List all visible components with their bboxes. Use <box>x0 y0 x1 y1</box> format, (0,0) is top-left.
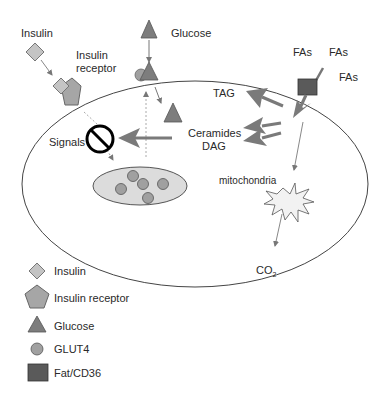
legend-glucose-icon <box>28 316 46 332</box>
ceramides-arrow <box>243 117 281 134</box>
glut4-icon <box>138 179 149 190</box>
signal-dotted-line-2 <box>107 150 113 160</box>
legend-glucose-label: Glucose <box>54 320 94 332</box>
tag-label: TAG <box>213 87 235 99</box>
legend-fat-cd36-icon <box>28 364 48 381</box>
tag-arrow <box>246 88 283 108</box>
insulin-resistance-diagram: Insulin Insulin receptor Signals Glucose… <box>0 0 389 400</box>
fas-label-3: FAs <box>339 71 358 83</box>
glucose-entry-arrow <box>155 87 161 103</box>
insulin-arrow <box>41 60 52 75</box>
signal-dotted-line <box>84 112 97 124</box>
mitochondria-icon <box>264 183 314 222</box>
glucose-label: Glucose <box>171 27 211 39</box>
co2-release-arrow <box>275 214 282 246</box>
legend-insulin-label: Insulin <box>54 265 86 277</box>
fas-label-1: FAs <box>293 46 312 58</box>
fas-label-2: FAs <box>329 46 348 58</box>
glut4-icon <box>128 171 139 182</box>
insulin-label: Insulin <box>21 27 53 39</box>
glucose-inside-icon <box>164 103 182 122</box>
ceramides-label: Ceramides <box>188 127 242 139</box>
blocked-signals-icon <box>87 126 113 152</box>
insulin-molecule-icon <box>26 43 44 61</box>
glut4-icon <box>143 193 154 204</box>
legend-insulin-receptor-label: Insulin receptor <box>54 292 130 304</box>
fa-oxidation-arrow <box>294 122 303 170</box>
legend-insulin-receptor-icon <box>25 285 49 308</box>
legend: Insulin Insulin receptor Glucose GLUT4 F… <box>25 263 130 381</box>
insulin-receptor-label-2: receptor <box>76 62 117 74</box>
legend-glut4-icon <box>31 343 43 355</box>
glucose-outside-icon <box>141 20 157 38</box>
cell-membrane <box>22 81 368 287</box>
mitochondria-label: mitochondria <box>219 175 277 186</box>
inhibition-arrow <box>118 128 172 148</box>
signals-label: Signals <box>49 136 86 148</box>
insulin-receptor-label-1: Insulin <box>76 49 108 61</box>
legend-glut4-label: GLUT4 <box>54 343 89 355</box>
fat-cd36-icon <box>298 79 317 95</box>
legend-insulin-icon <box>29 263 45 279</box>
dag-label: DAG <box>202 140 226 152</box>
co2-label: CO2 <box>256 264 277 278</box>
glut4-icon <box>116 184 127 195</box>
legend-fat-cd36-label: Fat/CD36 <box>54 367 101 379</box>
glut4-icon <box>158 179 169 190</box>
